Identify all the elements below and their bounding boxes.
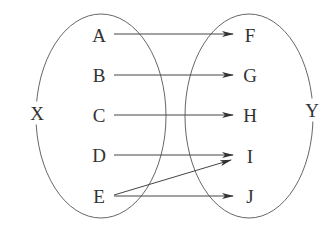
element-a: A [92,26,106,45]
element-f: F [245,26,256,45]
set-y-label: Y [305,99,319,122]
element-h: H [243,106,257,125]
mapping-diagram: X Y A B C D E F G H I J [0,0,336,234]
element-g: G [243,66,257,85]
set-x-label: X [30,102,44,125]
element-j: J [246,187,253,206]
arrow-e-to-i [114,160,231,195]
element-c: C [93,106,106,125]
element-e: E [93,187,105,206]
element-b: B [93,66,106,85]
element-i: I [247,147,253,166]
element-d: D [92,146,106,165]
diagram-graphics [0,0,336,234]
